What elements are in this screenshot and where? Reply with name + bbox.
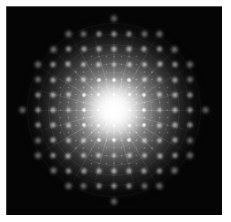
diffraction-spot: [156, 122, 163, 129]
diffraction-spot: [156, 152, 164, 160]
diffraction-spot: [33, 151, 42, 160]
diffraction-spot: [141, 76, 148, 83]
diffraction-spot: [64, 181, 73, 190]
diffraction-spot: [34, 136, 43, 145]
diffraction-spot-fine: [166, 108, 169, 111]
diffraction-spot-fine: [74, 78, 77, 81]
diffraction-spot: [49, 60, 57, 68]
diffraction-spot: [65, 137, 72, 144]
diffraction-spot-fine: [90, 78, 93, 81]
diffraction-spot: [171, 60, 179, 68]
diffraction-spot-fine: [143, 146, 146, 149]
diffraction-spot-fine: [143, 70, 146, 73]
diffraction-spot-fine: [74, 139, 77, 142]
diffraction-spot: [171, 91, 179, 99]
diffraction-spot: [64, 152, 72, 160]
diffraction-spot: [126, 61, 133, 68]
diffraction-spot-fine: [166, 116, 169, 119]
diffraction-spot: [109, 197, 118, 206]
diffraction-spot: [33, 60, 42, 69]
diffraction-spot: [18, 105, 27, 114]
diffraction-spot: [95, 45, 103, 53]
diffraction-spot-fine: [120, 162, 123, 165]
diffraction-spot-fine: [158, 101, 161, 104]
diffraction-spot-fine: [150, 70, 153, 73]
diffraction-spot: [155, 181, 164, 190]
diffraction-spot: [171, 76, 179, 84]
diffraction-spot: [125, 167, 133, 175]
diffraction-spot-fine: [67, 86, 70, 89]
diffraction-spot: [95, 167, 103, 175]
diffraction-spot: [171, 151, 179, 159]
diffraction-spot-fine: [82, 70, 85, 73]
diffraction-spot-fine: [143, 86, 146, 89]
diffraction-spot: [156, 60, 164, 68]
diffraction-spot-fine: [105, 154, 108, 157]
diffraction-spot-fine: [105, 63, 108, 66]
diffraction-spot: [111, 61, 118, 68]
diffraction-spot-fine: [135, 139, 138, 142]
diffraction-spot: [109, 14, 118, 23]
diffraction-spot: [64, 45, 72, 53]
diffraction-spot: [140, 182, 149, 191]
diffraction-spot: [49, 76, 57, 84]
diffraction-spot: [49, 166, 58, 175]
diffraction-spot-fine: [74, 146, 77, 149]
diffraction-spot: [49, 91, 57, 99]
diffraction-spot: [186, 136, 195, 145]
central-beam-core: [80, 76, 148, 144]
diffraction-spot: [49, 45, 58, 54]
diffraction-spot: [171, 106, 179, 114]
diffraction-spot-fine: [150, 139, 153, 142]
diffraction-spot: [65, 107, 72, 114]
diffraction-spot-fine: [82, 86, 85, 89]
diffraction-spot-fine: [112, 162, 115, 165]
diffraction-spot: [141, 137, 148, 144]
diffraction-spot-fine: [112, 55, 115, 58]
diffraction-spot: [155, 167, 163, 175]
diffraction-spot: [110, 167, 118, 175]
diffraction-spot-fine: [90, 154, 93, 157]
diffraction-spot: [140, 30, 149, 39]
diffraction-spot-fine: [82, 146, 85, 149]
diffraction-spot: [49, 106, 57, 114]
diffraction-spot-fine: [166, 101, 169, 104]
diffraction-spot-fine: [90, 63, 93, 66]
diffraction-plate: [6, 6, 222, 215]
diffraction-spot: [80, 76, 87, 83]
diffraction-spot: [80, 45, 88, 53]
diffraction-spot: [141, 61, 148, 68]
diffraction-spot-fine: [59, 108, 62, 111]
diffraction-spot-fine: [67, 116, 70, 119]
diffraction-spot-fine: [67, 101, 70, 104]
diffraction-spot-fine: [166, 86, 169, 89]
diffraction-spot-fine: [150, 78, 153, 81]
diffraction-spot: [201, 105, 210, 114]
diffraction-spot: [170, 45, 179, 54]
diffraction-spot: [126, 152, 133, 159]
diffraction-spot-fine: [90, 162, 93, 165]
diffraction-spot: [155, 29, 164, 38]
diffraction-spot-fine: [120, 63, 123, 66]
diffraction-spot: [185, 151, 194, 160]
diffraction-spot-fine: [158, 86, 161, 89]
diffraction-spot: [185, 60, 194, 69]
diffraction-spot: [80, 137, 87, 144]
diffraction-spot: [80, 167, 88, 175]
diffraction-spot: [64, 29, 73, 38]
diffraction-spot-fine: [166, 124, 169, 127]
figure-caption: [6, 216, 222, 222]
diffraction-spot: [64, 167, 72, 175]
diffraction-spot: [65, 122, 72, 129]
figure-root: [0, 0, 231, 222]
diffraction-spot-fine: [150, 146, 153, 149]
diffraction-spot-fine: [128, 162, 131, 165]
diffraction-spot-fine: [74, 70, 77, 73]
diffraction-spot: [171, 121, 179, 129]
diffraction-spot-fine: [105, 162, 108, 165]
diffraction-spot-fine: [143, 131, 146, 134]
diffraction-spot: [110, 45, 118, 53]
diffraction-spot-fine: [90, 139, 93, 142]
